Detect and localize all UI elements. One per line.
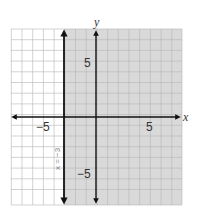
y-tick-neg5: −5 [77,167,91,181]
y-tick-5: 5 [84,56,91,70]
x-axis-label: x [182,110,189,124]
x-tick-5: 5 [146,120,153,134]
coordinate-plane: x y −5 5 5 −5 x = −3 [0,0,197,217]
y-axis-label: y [93,15,100,29]
boundary-label: x = −3 [53,147,62,170]
x-tick-neg5: −5 [36,120,50,134]
